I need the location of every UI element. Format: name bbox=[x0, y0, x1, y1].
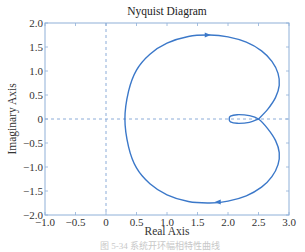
x-tick-label: 1.5 bbox=[191, 216, 205, 228]
nyquist-chart: Nyquist Diagram −1.0−0.500.51.01.52.02.5… bbox=[0, 0, 305, 252]
chart-title: Nyquist Diagram bbox=[127, 5, 207, 18]
x-tick-label: −0.5 bbox=[66, 216, 86, 228]
x-tick-label: 2.5 bbox=[252, 216, 266, 228]
y-tick-label: 2.0 bbox=[29, 17, 43, 29]
y-tick-label: 1.0 bbox=[29, 65, 43, 77]
x-axis-label: Real Axis bbox=[144, 225, 190, 237]
y-tick-label: −0.5 bbox=[23, 137, 43, 149]
figure-caption: 图 5-34 系统开环幅相特性曲线 bbox=[100, 240, 220, 251]
y-tick-label: 1.5 bbox=[29, 41, 43, 53]
y-tick-label: −2.0 bbox=[23, 209, 43, 221]
y-tick-label: −1.5 bbox=[23, 185, 43, 197]
x-tick-label: 3.0 bbox=[282, 216, 296, 228]
x-tick-label: 2.0 bbox=[221, 216, 235, 228]
y-axis-label: Imaginary Axis bbox=[6, 83, 19, 155]
x-tick-label: 0.5 bbox=[130, 216, 144, 228]
y-tick-label: −1.0 bbox=[23, 161, 43, 173]
y-tick-label: 0 bbox=[38, 113, 44, 125]
y-tick-label: 0.5 bbox=[29, 89, 43, 101]
y-tick-labels: 2.01.51.00.50−0.5−1.0−1.5−2.0 bbox=[23, 17, 43, 221]
x-tick-label: 0 bbox=[103, 216, 109, 228]
